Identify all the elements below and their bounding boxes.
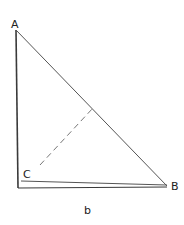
inner-line-cb	[21, 181, 167, 185]
side-left	[16, 30, 18, 188]
triangle-figure: A C B b	[0, 0, 184, 225]
dashed-altitude	[40, 108, 93, 165]
side-bottom	[18, 187, 167, 188]
caption: b	[84, 205, 91, 216]
label-c: C	[23, 169, 31, 180]
triangle-drawing	[0, 0, 184, 225]
label-a: A	[11, 19, 19, 30]
label-b: B	[171, 181, 179, 192]
hypotenuse-ab	[16, 30, 167, 186]
